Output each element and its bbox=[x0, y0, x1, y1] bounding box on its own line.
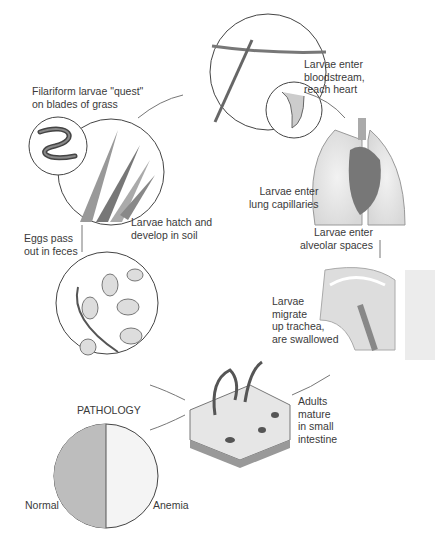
lungs-heart-illustration bbox=[313, 118, 406, 225]
arrow-grass-to-skin bbox=[138, 95, 183, 118]
label-intestine: Adults mature in small intestine bbox=[298, 395, 337, 445]
pathology-blood-smear bbox=[54, 424, 158, 528]
larva-closeup bbox=[29, 117, 87, 175]
label-normal: Normal bbox=[25, 499, 59, 512]
label-trachea: Larvae migrate up trachea, are swallowed bbox=[272, 295, 339, 345]
label-lung-capillaries: Larvae enter lung capillaries bbox=[249, 185, 318, 210]
label-anemia: Anemia bbox=[153, 499, 189, 512]
label-quest: Filariform larvae "quest" on blades of g… bbox=[32, 85, 143, 110]
arrow-intestine-to-pathology bbox=[150, 415, 185, 430]
label-hatch: Larvae hatch and develop in soil bbox=[131, 216, 212, 241]
label-eggs: Eggs pass out in feces bbox=[24, 232, 78, 257]
arrow-throat-to-intestine bbox=[292, 375, 330, 395]
arrow-intestine-to-eggs bbox=[150, 385, 185, 400]
life-cycle-illustration bbox=[0, 0, 435, 546]
pathology-title: PATHOLOGY bbox=[77, 404, 141, 417]
intestine-illustration bbox=[190, 362, 290, 468]
label-alveolar: Larvae enter alveolar spaces bbox=[300, 226, 373, 251]
label-bloodstream: Larvae enter bloodstream, reach heart bbox=[304, 58, 365, 96]
eggs-illustration bbox=[56, 252, 158, 355]
